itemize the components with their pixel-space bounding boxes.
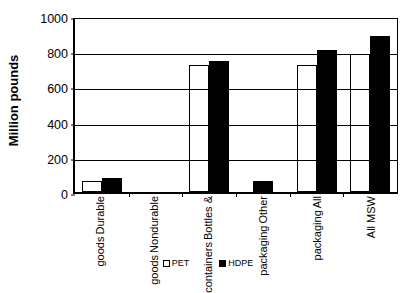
x-axis-label-line: packaging	[257, 226, 269, 276]
bar-hdpe	[253, 181, 273, 192]
x-axis-label-all-packaging: Allpackaging	[290, 196, 344, 258]
x-axis-label-text: Allpackaging	[311, 196, 323, 260]
x-axis-label-bottles-containers: Bottles &containers	[181, 196, 235, 258]
x-axis-label-line: Nondurable	[148, 196, 160, 253]
bar-pet	[189, 65, 209, 192]
x-axis-label-line: All	[311, 196, 323, 208]
bar-hdpe	[370, 36, 390, 192]
bar-pet	[297, 65, 317, 192]
y-axis-tick-label: 400	[47, 118, 75, 132]
x-axis-label-nondurable-goods: Nondurablegoods	[127, 196, 181, 258]
y-axis-tick-label: 600	[47, 82, 75, 96]
x-axis-label-text: Durablegoods	[94, 196, 106, 267]
plot-area: 02004006008001000	[73, 18, 398, 194]
x-axis-label-line: Other	[257, 196, 269, 224]
gridline	[75, 160, 397, 161]
chart-legend: PETHDPE	[0, 258, 416, 268]
legend-item-label: HDPE	[228, 258, 253, 268]
x-axis-label-line: packaging	[311, 210, 323, 260]
gridline	[75, 125, 397, 126]
x-axis-label-all-msw: All MSW	[344, 196, 398, 258]
x-axis-label-line: Bottles &	[202, 196, 214, 240]
y-axis-tick-label: 1000	[40, 12, 75, 26]
x-axis-label-other-packaging: Otherpackaging	[236, 196, 290, 258]
open-square-icon	[163, 260, 170, 267]
legend-item-hdpe: HDPE	[219, 258, 253, 268]
legend-item-label: PET	[172, 258, 190, 268]
bar-group	[343, 19, 397, 192]
gridline	[75, 54, 397, 55]
legend-item-pet: PET	[163, 258, 190, 268]
filled-square-icon	[219, 260, 226, 267]
y-axis-tick-label: 200	[47, 153, 75, 167]
y-axis-title-text: Million pounds	[7, 54, 22, 146]
bar-group	[290, 19, 344, 192]
bar-pet	[350, 54, 370, 192]
bar-pet	[82, 181, 102, 192]
bar-group	[236, 19, 290, 192]
gridline	[75, 89, 397, 90]
x-axis-label-text: Nondurablegoods	[148, 196, 160, 285]
bar-hdpe	[209, 61, 229, 192]
bar-group	[182, 19, 236, 192]
y-axis-tick-label: 800	[47, 47, 75, 61]
x-axis-label-text: All MSW	[365, 196, 377, 238]
x-axis-label-text: Bottles &containers	[202, 196, 214, 293]
x-axis-label-line: Durable	[94, 196, 106, 235]
bar-group	[75, 19, 129, 192]
y-axis-title: Million pounds	[2, 0, 26, 200]
bar-hdpe	[317, 50, 337, 192]
x-axis-label-durable-goods: Durablegoods	[73, 196, 127, 258]
bar-hdpe	[102, 178, 122, 192]
bar-series-container	[75, 19, 397, 192]
bar-group	[129, 19, 183, 192]
x-axis-category-labels: DurablegoodsNondurablegoodsBottles &cont…	[73, 196, 398, 258]
x-axis-label-line: All MSW	[365, 196, 377, 238]
